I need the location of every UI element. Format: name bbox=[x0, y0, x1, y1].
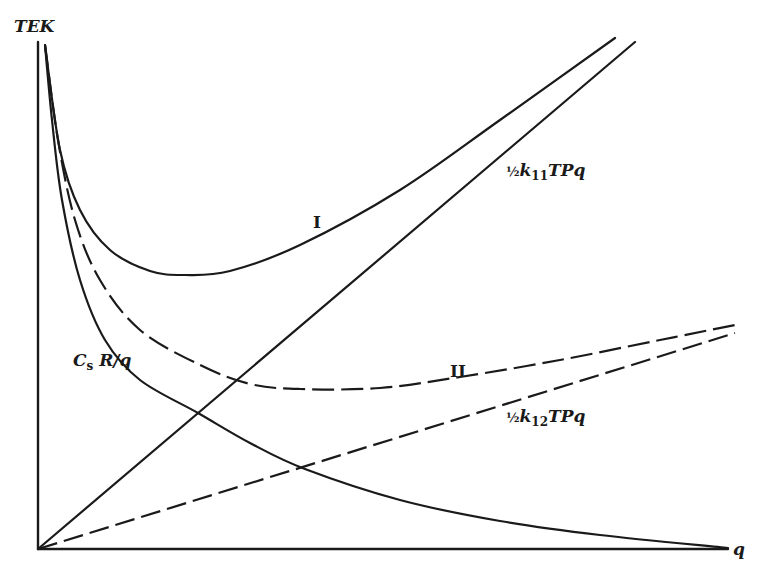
label-k12-rest: TPq bbox=[548, 406, 585, 426]
curve-I-label: I bbox=[313, 214, 321, 231]
label-CsR-over-q: Cs R/q bbox=[73, 352, 131, 372]
label-CsR-rest: R/q bbox=[93, 350, 131, 370]
label-k12-frac: ½ bbox=[506, 410, 520, 425]
label-k11-sub: 11 bbox=[531, 169, 548, 183]
label-half-k12-TPq: ½k12TPq bbox=[506, 408, 585, 428]
chart-canvas bbox=[0, 0, 768, 573]
label-k12-k: k bbox=[520, 406, 532, 426]
label-k11-rest: TPq bbox=[548, 160, 585, 180]
label-half-k11-TPq: ½k11TPq bbox=[506, 162, 585, 182]
series-curve-II bbox=[45, 45, 735, 390]
x-axis-label: q bbox=[733, 541, 745, 558]
label-k11-frac: ½ bbox=[506, 164, 520, 179]
y-axis-label: TEK bbox=[14, 18, 54, 35]
series-curve-I bbox=[45, 38, 615, 275]
curve-II-label: II bbox=[450, 363, 466, 380]
label-CsR-C: C bbox=[73, 350, 87, 370]
label-k11-k: k bbox=[520, 160, 532, 180]
series-half-k12-TPq bbox=[38, 333, 735, 549]
series-half-k11-TPq bbox=[38, 42, 635, 549]
label-k12-sub: 12 bbox=[531, 415, 548, 429]
series-CsR-over-q bbox=[45, 45, 728, 548]
